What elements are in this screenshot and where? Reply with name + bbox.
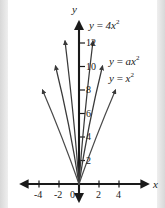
y-tick-label-12: 12	[86, 38, 96, 48]
curve-label-x-squared: y = x2	[109, 73, 134, 84]
plot-canvas	[0, 0, 165, 208]
y-tick-label-4: 4	[86, 132, 91, 142]
x-axis	[21, 181, 148, 188]
x-tick-label-4: 4	[116, 190, 121, 200]
parabola-family-figure: y x 12 10 8 6 4 2 -4 -2 0 2 4 y = 4x2 y …	[0, 0, 165, 208]
x-axis-label: x	[153, 179, 158, 190]
x-tick-label-minus-2: -2	[54, 190, 62, 200]
x-tick-label-2: 2	[96, 190, 101, 200]
x-tick-label-zero: 0	[70, 190, 75, 200]
y-axis-label: y	[72, 4, 77, 15]
y-tick-label-8: 8	[86, 85, 91, 95]
y-tick-label-2: 2	[86, 156, 91, 166]
y-tick-label-6: 6	[86, 109, 91, 119]
curve-label-4x-squared: y = 4x2	[89, 20, 120, 31]
y-tick-label-10: 10	[86, 62, 96, 72]
x-tick-label-minus-4: -4	[34, 190, 42, 200]
curve-label-ax-squared: y = ax2	[109, 56, 140, 67]
